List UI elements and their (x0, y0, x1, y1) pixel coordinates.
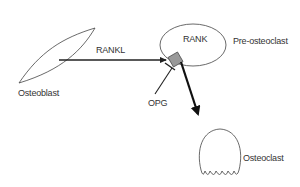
osteoblast-cell (19, 28, 95, 83)
differentiation-arrow (181, 62, 198, 114)
opg-label: OPG (148, 98, 168, 108)
rankl-label: RANKL (96, 45, 125, 55)
opg-inhibition (155, 63, 175, 94)
osteoblast-label: Osteoblast (18, 88, 60, 98)
rankl-opg-pathway-diagram: Osteoblast RANKL RANK Pre-osteoclast OPG… (0, 0, 300, 187)
osteoclast-label: Osteoclast (243, 153, 284, 163)
pre-osteoclast-label: Pre-osteoclast (233, 36, 288, 46)
osteoclast-cell (199, 129, 240, 175)
rank-label: RANK (183, 34, 207, 44)
